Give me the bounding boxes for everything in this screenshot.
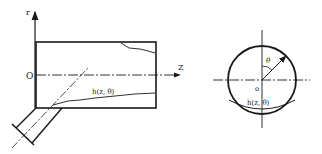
side-view: r O Z h(z, θ)	[12, 8, 184, 148]
origin-label: O	[26, 71, 33, 81]
r-axis-label: r	[26, 8, 30, 17]
end-clearance-label: h(z, θ)	[247, 99, 270, 107]
diagram-canvas: r O Z h(z, θ) θ o h(z, θ)	[0, 0, 322, 154]
end-view: θ o h(z, θ)	[213, 30, 310, 128]
pipe-wall-left	[16, 108, 36, 128]
pipe-flange	[12, 124, 34, 145]
z-axis-label: Z	[178, 63, 184, 72]
top-clearance-curve	[121, 43, 155, 53]
side-clearance-label: h(z, θ)	[92, 88, 115, 96]
theta-label: θ	[266, 57, 271, 65]
pipe-wall-right	[32, 108, 62, 143]
end-origin-label: o	[255, 85, 259, 93]
theta-arc	[262, 66, 272, 70]
